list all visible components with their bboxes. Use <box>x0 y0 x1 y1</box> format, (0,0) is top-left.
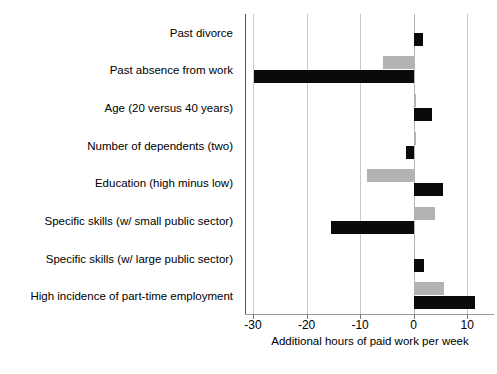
x-tick-label: -30 <box>244 318 261 332</box>
bar-series-black <box>414 183 443 196</box>
bar-group <box>245 132 494 160</box>
category-label: Education (high minus low) <box>95 177 233 190</box>
x-tick-label: 0 <box>410 318 417 332</box>
category-label: Specific skills (w/ small public sector) <box>44 215 233 228</box>
bar-series-gray <box>414 282 444 295</box>
category-label: Specific skills (w/ large public sector) <box>46 253 233 266</box>
bar-series-black <box>406 146 414 159</box>
x-tick-label: 10 <box>461 318 474 332</box>
category-label: High incidence of part-time employment <box>30 290 233 303</box>
bar-group <box>245 245 494 273</box>
bar-group <box>245 169 494 197</box>
bar-series-gray <box>414 245 416 258</box>
plot-area <box>245 14 494 315</box>
bar-series-gray <box>367 169 414 182</box>
category-label: Past absence from work <box>110 64 233 77</box>
bar-group <box>245 56 494 84</box>
value-axis-baseline <box>245 314 494 315</box>
category-label: Number of dependents (two) <box>87 140 233 153</box>
x-axis-title: Additional hours of paid work per week <box>245 334 495 348</box>
category-axis-labels: Past divorcePast absence from workAge (2… <box>0 14 239 314</box>
category-label: Past divorce <box>170 27 233 40</box>
x-tick-label: -20 <box>298 318 315 332</box>
value-axis-tick-labels: -30-20-10010 <box>245 318 497 334</box>
bar-series-black <box>414 296 475 309</box>
bar-group <box>245 94 494 122</box>
bar-series-gray <box>414 94 416 107</box>
bar-group <box>245 19 494 47</box>
bar-series-black <box>414 108 432 121</box>
bar-group <box>245 282 494 310</box>
x-tick-label: -10 <box>351 318 368 332</box>
bar-series-black <box>331 221 414 234</box>
bar-series-black <box>414 259 424 272</box>
bar-group <box>245 207 494 235</box>
category-label: Age (20 versus 40 years) <box>105 102 233 115</box>
bar-series-gray <box>383 56 414 69</box>
bar-series-black <box>414 33 423 46</box>
bar-series-gray <box>414 207 435 220</box>
horizontal-bar-chart: Past divorcePast absence from workAge (2… <box>0 0 497 374</box>
bar-series-black <box>254 70 414 83</box>
bar-series-gray <box>414 132 416 145</box>
bar-series-gray <box>414 19 416 32</box>
